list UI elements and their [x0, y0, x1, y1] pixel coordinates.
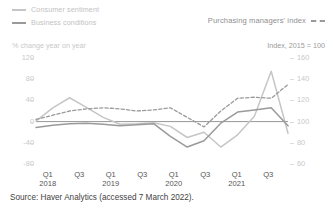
- plot-area: [0, 0, 333, 212]
- series-line-business-conditions: [36, 108, 288, 147]
- source-note: Source: Haver Analytics (accessed 7 Marc…: [10, 193, 194, 202]
- chart-figure: Consumer sentiment Business conditions P…: [0, 0, 333, 212]
